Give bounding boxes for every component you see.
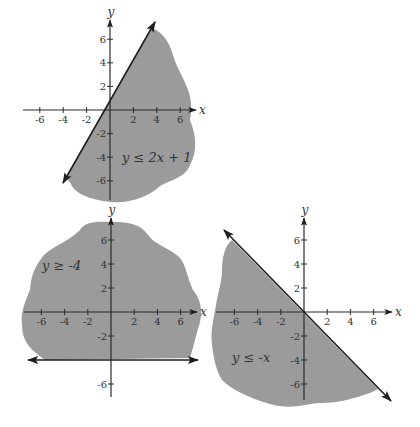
y-tick-label: -4 xyxy=(290,355,300,366)
x-tick-label: -6 xyxy=(230,316,240,327)
x-tick-label: -6 xyxy=(35,114,45,125)
inequality-label: y ≤ -x xyxy=(231,350,271,365)
graph-y-le-minus-x: x-6-4-2246y642-2-4-6 y ≤ -x xyxy=(211,203,402,407)
x-tick-label: -2 xyxy=(276,316,286,327)
y-tick-label: 6 xyxy=(100,34,106,45)
x-tick-label: -4 xyxy=(60,316,70,327)
y-tick-label: 2 xyxy=(100,81,106,92)
x-tick-label: 4 xyxy=(154,316,160,327)
y-axis-label: y xyxy=(107,5,115,19)
x-tick-label: 6 xyxy=(177,316,183,327)
x-axis-label: x xyxy=(395,305,402,319)
x-axis-label: x xyxy=(199,103,206,117)
y-tick-label: -6 xyxy=(96,175,106,186)
x-tick-label: 2 xyxy=(131,316,137,327)
inequality-graphs-figure: x-6-4-2246y642-2-4-6 y ≤ 2x + 1 x-6-4-22… xyxy=(0,0,420,427)
graph-2x-plus-1: x-6-4-2246y642-2-4-6 y ≤ 2x + 1 xyxy=(23,5,206,202)
y-tick-label: 6 xyxy=(294,235,300,246)
x-tick-label: 2 xyxy=(130,114,136,125)
x-tick-label: 2 xyxy=(324,316,330,327)
x-tick-label: -2 xyxy=(83,316,93,327)
inequality-label: y ≥ -4 xyxy=(41,258,81,273)
x-axis-label: x xyxy=(200,305,207,319)
graph-y-ge-minus-4: x-6-4-2246y642-2-6 y ≥ -4 xyxy=(22,203,207,397)
y-tick-label: -2 xyxy=(290,331,300,342)
y-tick-label: -6 xyxy=(97,379,107,390)
y-tick-label: 4 xyxy=(294,259,300,270)
y-tick-label: 6 xyxy=(101,235,107,246)
x-tick-label: -2 xyxy=(82,114,92,125)
y-axis-label: y xyxy=(301,203,309,217)
y-tick-label: -2 xyxy=(96,128,106,139)
x-tick-label: -6 xyxy=(37,316,47,327)
x-tick-label: -4 xyxy=(253,316,263,327)
y-tick-label: -4 xyxy=(96,152,106,163)
diagram-canvas: x-6-4-2246y642-2-4-6 y ≤ 2x + 1 x-6-4-22… xyxy=(0,0,420,427)
y-axis-label: y xyxy=(108,203,116,217)
x-tick-label: 4 xyxy=(154,114,160,125)
y-tick-label: -2 xyxy=(97,331,107,342)
x-tick-label: -4 xyxy=(58,114,68,125)
y-tick-label: 2 xyxy=(101,283,107,294)
y-tick-label: 4 xyxy=(100,57,106,68)
x-tick-label: 6 xyxy=(177,114,183,125)
inequality-label: y ≤ 2x + 1 xyxy=(121,150,192,165)
y-tick-label: 4 xyxy=(101,259,107,270)
y-tick-label: 2 xyxy=(294,283,300,294)
x-tick-label: 6 xyxy=(370,316,376,327)
x-tick-label: 4 xyxy=(347,316,353,327)
y-tick-label: -6 xyxy=(290,379,300,390)
